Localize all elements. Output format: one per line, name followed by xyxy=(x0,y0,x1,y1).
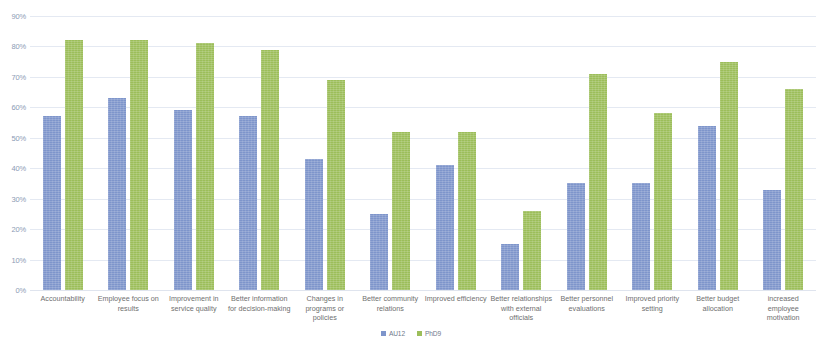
bar-phd9[interactable] xyxy=(589,74,607,290)
bar-au12[interactable] xyxy=(501,244,519,290)
bar-phd9[interactable] xyxy=(261,50,279,291)
bar-phd9[interactable] xyxy=(130,40,148,290)
bar-group xyxy=(161,16,227,290)
bar-phd9[interactable] xyxy=(523,211,541,290)
legend-swatch-icon xyxy=(381,331,386,336)
y-axis-tick-label: 40% xyxy=(12,164,26,173)
bar-au12[interactable] xyxy=(370,214,388,290)
y-axis-tick-label: 0% xyxy=(16,286,26,295)
bar-group xyxy=(554,16,620,290)
bar-au12[interactable] xyxy=(763,190,781,290)
legend-label: AU12 xyxy=(389,330,405,337)
bar-au12[interactable] xyxy=(567,183,585,290)
bar-chart: 90%80%70%60%50%40%30%20%10%0% Accountabi… xyxy=(0,0,822,343)
y-axis-tick-label: 10% xyxy=(12,255,26,264)
axis-baseline xyxy=(30,290,816,291)
y-axis-tick-label: 90% xyxy=(12,12,26,21)
legend-swatch-icon xyxy=(417,331,422,336)
bar-group xyxy=(489,16,555,290)
bar-au12[interactable] xyxy=(108,98,126,290)
bar-group xyxy=(751,16,817,290)
bar-phd9[interactable] xyxy=(392,132,410,290)
bar-au12[interactable] xyxy=(174,110,192,290)
y-axis-tick-label: 80% xyxy=(12,42,26,51)
bar-phd9[interactable] xyxy=(654,113,672,290)
y-axis-labels: 90%80%70%60%50%40%30%20%10%0% xyxy=(0,0,30,343)
bar-phd9[interactable] xyxy=(327,80,345,290)
bar-phd9[interactable] xyxy=(785,89,803,290)
y-axis-tick-label: 30% xyxy=(12,194,26,203)
bar-group xyxy=(685,16,751,290)
bar-au12[interactable] xyxy=(698,126,716,290)
bar-phd9[interactable] xyxy=(720,62,738,290)
bar-group xyxy=(292,16,358,290)
bar-group xyxy=(96,16,162,290)
legend-label: PhD9 xyxy=(425,330,441,337)
y-axis-tick-label: 60% xyxy=(12,103,26,112)
bar-au12[interactable] xyxy=(239,116,257,290)
bar-group xyxy=(227,16,293,290)
plot-area xyxy=(30,16,816,290)
legend-item[interactable]: AU12 xyxy=(381,330,405,337)
y-axis-tick-label: 20% xyxy=(12,225,26,234)
bar-phd9[interactable] xyxy=(196,43,214,290)
bar-phd9[interactable] xyxy=(458,132,476,290)
bar-au12[interactable] xyxy=(305,159,323,290)
bar-group xyxy=(423,16,489,290)
legend-item[interactable]: PhD9 xyxy=(417,330,441,337)
bar-group xyxy=(358,16,424,290)
bar-au12[interactable] xyxy=(632,183,650,290)
bar-phd9[interactable] xyxy=(65,40,83,290)
y-axis-tick-label: 70% xyxy=(12,72,26,81)
bar-au12[interactable] xyxy=(43,116,61,290)
bar-group xyxy=(620,16,686,290)
y-axis-tick-label: 50% xyxy=(12,133,26,142)
chart-legend: AU12PhD9 xyxy=(0,330,822,337)
bar-au12[interactable] xyxy=(436,165,454,290)
bar-groups xyxy=(30,16,816,290)
bar-group xyxy=(30,16,96,290)
